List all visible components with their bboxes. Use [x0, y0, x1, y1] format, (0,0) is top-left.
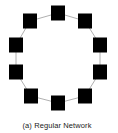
- network-node: [23, 14, 37, 29]
- network-node: [51, 6, 65, 21]
- figure-caption: (a) Regular Network: [0, 121, 114, 130]
- network-node: [9, 65, 23, 80]
- network-node: [93, 65, 107, 80]
- network-node: [24, 89, 38, 104]
- regular-network-diagram: [0, 0, 118, 118]
- network-node: [51, 96, 65, 111]
- network-nodes: [9, 6, 107, 111]
- network-node: [78, 89, 92, 104]
- network-node: [9, 38, 23, 53]
- network-node: [78, 14, 92, 29]
- network-node: [93, 38, 107, 53]
